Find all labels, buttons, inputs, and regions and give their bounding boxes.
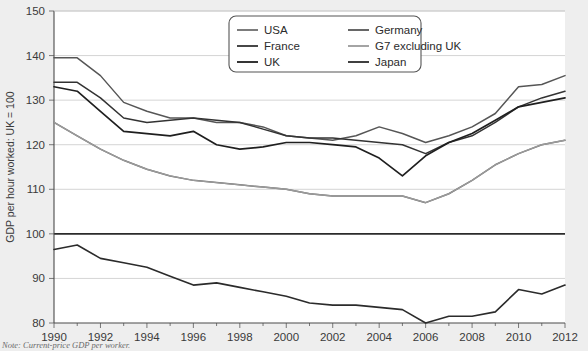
y-tick-label-90: 90 [32,272,45,284]
x-tick-label-2012: 2012 [552,331,578,343]
legend-label-japan: Japan [375,56,406,68]
x-tick-label-1998: 1998 [227,331,253,343]
chart-figure: 8090100110120130140150 19901992199419961… [0,0,588,351]
chart-note: Note: Current-price GDP per worker. [1,340,130,350]
x-tick-label-2008: 2008 [459,331,485,343]
x-tick-label-2002: 2002 [320,331,346,343]
x-tick-label-2004: 2004 [366,331,392,343]
y-tick-label-130: 130 [26,94,45,106]
x-tick-label-2006: 2006 [413,331,439,343]
y-tick-label-110: 110 [27,183,45,195]
y-tick-label-140: 140 [26,50,45,62]
legend-label-germany: Germany [375,24,423,36]
y-axis-label: GDP per hour worked: UK = 100 [4,91,16,242]
legend-label-usa: USA [264,24,288,36]
x-tick-label-2000: 2000 [273,331,299,343]
x-tick-label-1994: 1994 [134,331,160,343]
y-tick-label-80: 80 [32,317,45,329]
legend-label-g7-excluding-uk: G7 excluding UK [375,40,462,52]
x-tick-label-2010: 2010 [506,331,532,343]
y-tick-label-150: 150 [26,5,45,17]
legend-label-france: France [264,40,300,52]
line-chart: 8090100110120130140150 19901992199419961… [0,0,588,351]
y-tick-label-120: 120 [26,139,45,151]
y-tick-label-100: 100 [26,228,45,240]
x-tick-label-1996: 1996 [181,331,207,343]
legend-label-uk: UK [264,56,280,68]
